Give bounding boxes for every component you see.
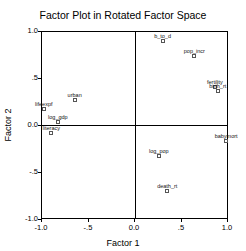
data-point-label: b_to_d — [154, 33, 171, 39]
x-tick-mark — [88, 219, 89, 222]
data-point-label: literacy — [43, 125, 60, 131]
x-tick-label: .5 — [166, 223, 196, 232]
y-tick-label: -1.0 — [8, 214, 38, 223]
data-point-marker — [192, 54, 196, 58]
plot-area — [41, 31, 228, 219]
x-tick-mark — [134, 219, 135, 222]
data-point-label: log_pop — [149, 148, 169, 154]
data-point-label: urban — [68, 92, 82, 98]
zero-line-horizontal — [42, 125, 227, 126]
chart-title: Factor Plot in Rotated Factor Space — [0, 9, 246, 21]
data-point-marker — [224, 139, 228, 143]
data-point-label: birth_rt — [209, 83, 226, 89]
data-point-label: babymort — [215, 133, 238, 139]
data-point-marker — [73, 98, 77, 102]
y-tick-label: 0.0 — [8, 120, 38, 129]
data-point-marker — [49, 131, 53, 135]
x-tick-label: 0.0 — [119, 223, 149, 232]
x-axis-label: Factor 1 — [0, 238, 246, 248]
data-point-marker — [56, 120, 60, 124]
x-tick-label: -.5 — [73, 223, 103, 232]
data-point-marker — [157, 154, 161, 158]
data-point-marker — [42, 107, 46, 111]
data-point-label: lifeexpf — [35, 101, 52, 107]
x-tick-label: 1.0 — [212, 223, 242, 232]
x-tick-mark — [181, 219, 182, 222]
data-point-label: log_gdp — [48, 114, 68, 120]
data-point-marker — [216, 89, 220, 93]
data-point-marker — [165, 189, 169, 193]
data-point-label: pop_incr — [184, 48, 205, 54]
y-tick-label: -.5 — [8, 167, 38, 176]
x-tick-mark — [41, 219, 42, 222]
data-point-marker — [161, 39, 165, 43]
x-tick-label: -1.0 — [26, 223, 56, 232]
y-tick-label: 1.0 — [8, 26, 38, 35]
data-point-label: death_rt — [157, 183, 177, 189]
y-tick-label: .5 — [8, 73, 38, 82]
x-tick-mark — [227, 219, 228, 222]
